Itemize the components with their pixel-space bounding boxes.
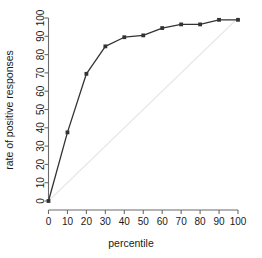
y-tick-label: 70 <box>35 67 46 79</box>
x-tick-label: 0 <box>46 216 52 227</box>
x-tick-label: 50 <box>138 216 150 227</box>
data-point-marker <box>47 199 51 203</box>
y-axis-title: rate of positive responses <box>3 50 15 170</box>
x-tick-label: 100 <box>230 216 247 227</box>
x-tick-label: 40 <box>119 216 131 227</box>
y-tick-label: 60 <box>35 85 46 97</box>
chart-figure: 0102030405060708090100 01020304050607080… <box>0 0 262 258</box>
y-tick-label: 30 <box>35 140 46 152</box>
data-point-marker <box>160 26 164 30</box>
data-point-marker <box>141 33 145 37</box>
y-tick-label: 50 <box>35 104 46 116</box>
y-tick-label: 80 <box>35 49 46 61</box>
data-point-marker <box>236 18 240 22</box>
data-point-marker <box>66 130 70 134</box>
y-tick-label: 90 <box>35 30 46 42</box>
x-tick-label: 60 <box>157 216 169 227</box>
x-tick-label: 20 <box>81 216 93 227</box>
x-tick-label: 80 <box>195 216 207 227</box>
data-point-marker <box>198 23 202 27</box>
data-point-marker <box>85 72 89 76</box>
x-tick-label: 90 <box>213 216 225 227</box>
x-tick-label: 30 <box>100 216 112 227</box>
lift-curve-plot: 0102030405060708090100 01020304050607080… <box>0 0 262 258</box>
x-tick-label: 10 <box>62 216 74 227</box>
data-point-marker <box>122 35 126 39</box>
y-tick-label: 10 <box>35 177 46 189</box>
data-point-marker <box>217 18 221 22</box>
y-tick-label: 40 <box>35 122 46 134</box>
y-tick-label: 0 <box>35 198 46 204</box>
y-tick-label: 20 <box>35 158 46 170</box>
data-point-marker <box>103 44 107 48</box>
data-point-marker <box>179 23 183 27</box>
x-axis-title: percentile <box>108 237 154 249</box>
x-tick-label: 70 <box>176 216 188 227</box>
y-tick-label: 100 <box>35 9 46 26</box>
